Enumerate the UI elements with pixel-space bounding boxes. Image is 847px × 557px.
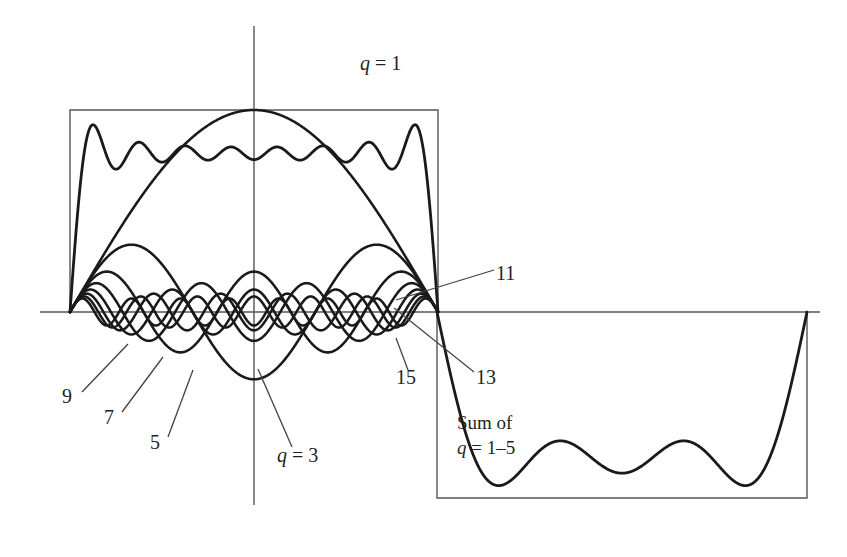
leader-line-9 xyxy=(82,344,128,392)
label-15: 15 xyxy=(396,366,416,390)
fourier-harmonics-figure: q = 1 q = 3 9 7 5 15 13 11 Sum of q = 1–… xyxy=(0,0,847,557)
label-11: 11 xyxy=(496,262,515,286)
leader-line-5 xyxy=(168,370,193,437)
leader-line-q3 xyxy=(258,369,292,447)
label-7: 7 xyxy=(104,406,114,430)
label-q1: q = 1 xyxy=(360,52,401,76)
label-sum-range: q = 1–5 xyxy=(457,437,515,459)
label-9: 9 xyxy=(62,385,72,409)
label-sum-of: Sum of xyxy=(457,412,512,434)
leader-line-13 xyxy=(394,308,474,372)
square-wave-negative-half xyxy=(437,312,807,498)
label-5: 5 xyxy=(150,431,160,455)
leader-line-7 xyxy=(122,357,163,412)
figure-canvas xyxy=(0,0,847,557)
label-q3: q = 3 xyxy=(277,444,318,468)
partial-sum-curve-bottom xyxy=(437,312,807,486)
label-13: 13 xyxy=(476,366,496,390)
